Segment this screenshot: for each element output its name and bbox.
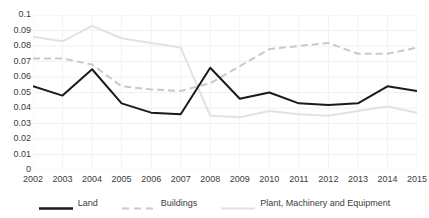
y-tick-label: 0.05 — [13, 88, 31, 97]
x-tick-label: 2009 — [230, 174, 250, 185]
x-tick-label: 2015 — [407, 174, 427, 185]
y-tick-label: 0.06 — [13, 72, 31, 81]
legend-swatch-icon — [221, 199, 255, 208]
x-axis: 2002200320042005200620072008200920102011… — [33, 174, 417, 190]
x-tick-label: 2012 — [318, 174, 338, 185]
x-tick-label: 2013 — [348, 174, 368, 185]
x-tick-label: 2007 — [171, 174, 191, 185]
x-tick-label: 2002 — [23, 174, 43, 185]
y-tick-label: 0.1 — [18, 10, 31, 19]
x-tick-label: 2014 — [377, 174, 397, 185]
legend-label: Land — [78, 198, 98, 208]
y-tick-label: 0.07 — [13, 57, 31, 66]
legend-swatch-icon — [39, 199, 73, 208]
line-chart: 0.10.090.080.070.060.050.040.030.020.010… — [0, 0, 429, 218]
x-tick-label: 2010 — [259, 174, 279, 185]
legend-label: Plant, Machinery and Equipment — [260, 198, 390, 208]
y-tick-label: 0.03 — [13, 119, 31, 128]
x-tick-label: 2004 — [82, 174, 102, 185]
chart-legend: LandBuildingsPlant, Machinery and Equipm… — [0, 194, 429, 212]
legend-item[interactable]: Buildings — [122, 198, 198, 208]
legend-swatch-icon — [122, 199, 156, 208]
y-tick-label: 0.01 — [13, 150, 31, 159]
legend-item[interactable]: Plant, Machinery and Equipment — [221, 198, 390, 208]
y-tick-label: 0 — [26, 165, 31, 174]
y-tick-label: 0.04 — [13, 103, 31, 112]
legend-item[interactable]: Land — [39, 198, 98, 208]
y-axis: 0.10.090.080.070.060.050.040.030.020.010 — [0, 0, 31, 175]
x-tick-label: 2011 — [289, 174, 308, 185]
y-tick-label: 0.09 — [13, 26, 31, 35]
legend-label: Buildings — [161, 198, 198, 208]
x-tick-label: 2006 — [141, 174, 161, 185]
plot-area — [33, 15, 417, 170]
x-tick-label: 2008 — [200, 174, 220, 185]
x-tick-label: 2003 — [53, 174, 73, 185]
y-tick-label: 0.08 — [13, 41, 31, 50]
x-tick-label: 2005 — [112, 174, 132, 185]
y-tick-label: 0.02 — [13, 134, 31, 143]
plot-svg — [33, 15, 417, 170]
